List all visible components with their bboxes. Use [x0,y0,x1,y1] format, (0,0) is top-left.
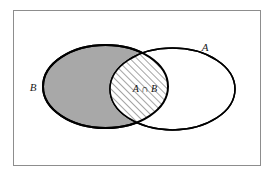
intersection-label: A ∩ B [132,83,157,94]
venn-diagram-figure: A B A ∩ B [0,0,272,177]
set-a-label: A [201,41,209,53]
set-b-label: B [30,81,37,93]
venn-diagram-canvas: A B A ∩ B [0,0,272,177]
